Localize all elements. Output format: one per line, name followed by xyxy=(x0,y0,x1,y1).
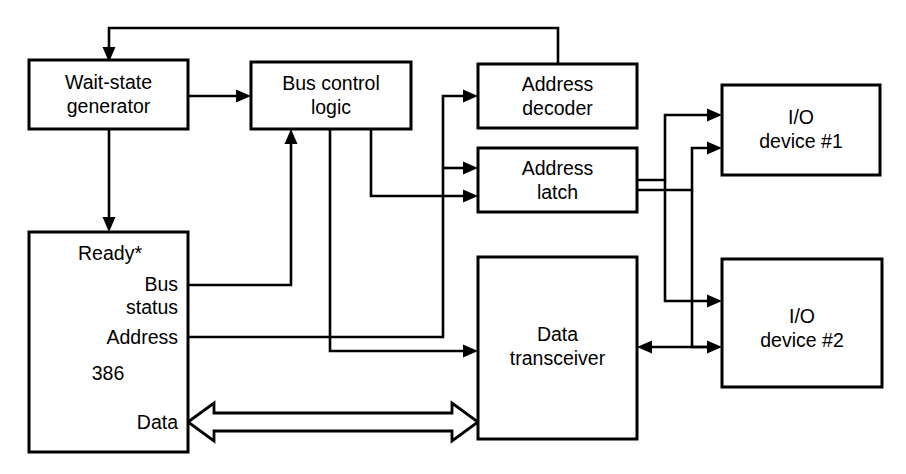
block-io-device-1[interactable]: I/O device #1 xyxy=(722,85,880,175)
arrowhead-icon xyxy=(463,90,478,103)
wire-bus-control-to-data-transceiver xyxy=(330,129,478,358)
block-io-device-1-label-1: I/O xyxy=(788,106,814,128)
block-cpu-386[interactable]: Ready* Bus status Address 386 Data xyxy=(29,232,188,452)
block-bus-control-logic-label-1: Bus control xyxy=(282,72,380,94)
wire-bus-control-to-address-latch xyxy=(371,129,478,203)
arrowhead-icon xyxy=(707,142,722,155)
arrowhead-icon xyxy=(707,295,722,308)
block-address-decoder-label-1: Address xyxy=(522,73,594,95)
wire-data-transceiver-to-io-device-2 xyxy=(637,341,714,354)
wire-wait-state-to-cpu-ready xyxy=(103,129,116,232)
block-io-device-2-label-2: device #2 xyxy=(760,329,843,351)
cpu-pin-bus-status-line-2: status xyxy=(126,296,178,318)
block-data-transceiver-label-2: transceiver xyxy=(510,347,606,369)
wire-wait-state-to-bus-control xyxy=(188,90,251,103)
block-data-transceiver[interactable]: Data transceiver xyxy=(478,257,637,439)
cpu-pin-bus-status-line-1: Bus xyxy=(144,273,178,295)
data-bus-hollow-arrow xyxy=(188,403,478,441)
block-io-device-2[interactable]: I/O device #2 xyxy=(722,259,882,387)
block-address-latch-label-2: latch xyxy=(537,181,578,203)
cpu-chip-label: 386 xyxy=(92,362,125,384)
arrowhead-icon xyxy=(463,345,478,358)
arrowhead-icon xyxy=(285,129,298,144)
arrowhead-icon xyxy=(707,109,722,122)
block-wait-state-generator-label-1: Wait-state xyxy=(65,71,152,93)
arrowhead-icon xyxy=(103,217,116,232)
block-io-device-2-label-1: I/O xyxy=(789,305,815,327)
block-address-latch[interactable]: Address latch xyxy=(478,148,637,212)
arrowhead-icon xyxy=(463,190,478,203)
arrowhead-icon xyxy=(463,162,478,175)
wire-address-decoder-to-io-devices xyxy=(637,142,722,354)
block-io-device-1-label-2: device #1 xyxy=(759,130,842,152)
arrowhead-icon xyxy=(236,90,251,103)
cpu-pin-address: Address xyxy=(106,326,178,348)
cpu-pin-data: Data xyxy=(137,411,178,433)
block-address-decoder[interactable]: Address decoder xyxy=(478,64,637,128)
block-wait-state-generator[interactable]: Wait-state generator xyxy=(29,60,188,129)
cpu-pin-ready: Ready* xyxy=(78,242,142,264)
block-address-decoder-label-2: decoder xyxy=(522,97,593,119)
wire-address-latch-to-io-devices xyxy=(637,109,722,308)
arrowhead-icon xyxy=(637,341,652,354)
block-bus-control-logic[interactable]: Bus control logic xyxy=(251,62,411,129)
block-bus-control-logic-label-2: logic xyxy=(311,96,351,118)
block-address-latch-label-1: Address xyxy=(522,157,594,179)
block-wait-state-generator-label-2: generator xyxy=(67,95,151,117)
wire-cpu-bus-status-to-bus-control xyxy=(188,129,298,285)
block-diagram-canvas: Wait-state generator Bus control logic A… xyxy=(0,0,906,474)
block-data-transceiver-label-1: Data xyxy=(537,323,578,345)
block-diagram: Wait-state generator Bus control logic A… xyxy=(0,0,906,474)
